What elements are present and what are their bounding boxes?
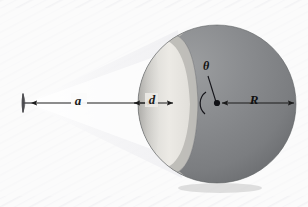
sphere-center-dot	[214, 100, 220, 106]
optics-sphere-diagram: a d R θ	[0, 0, 308, 207]
label-theta: θ	[203, 59, 210, 73]
figure-container: PROBLEM 18	[0, 0, 308, 207]
label-R: R	[249, 92, 259, 107]
label-d: d	[149, 92, 156, 107]
label-a: a	[75, 93, 82, 108]
sphere-shadow	[178, 183, 262, 193]
